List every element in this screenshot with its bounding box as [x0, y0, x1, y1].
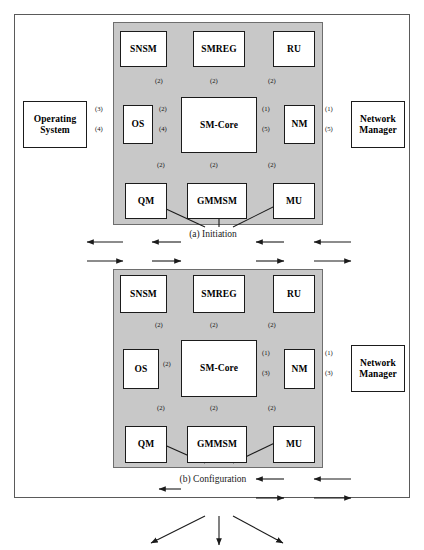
edge-label-core-gmmsm-b: (2) [210, 404, 218, 411]
edge-label-core-snsm-b: (2) [155, 321, 163, 328]
node-sm-core-a-label: SM-Core [200, 120, 238, 130]
edge-label-core-smreg-a: (2) [210, 77, 218, 84]
node-smreg-b[interactable]: SMREG [193, 275, 245, 313]
node-nm-b-label: NM [291, 364, 307, 374]
node-qm-a[interactable]: QM [125, 183, 167, 219]
node-os-b[interactable]: OS [123, 349, 159, 389]
node-os-b-label: OS [135, 364, 148, 374]
node-ru-a-label: RU [287, 44, 301, 54]
node-gmmsm-b[interactable]: GMMSM [187, 426, 247, 463]
edge-label-core-mu-b: (2) [268, 404, 276, 411]
node-network-manager-a-label-line1: Network [359, 114, 397, 124]
node-ru-a[interactable]: RU [273, 31, 315, 67]
edge-label-nm-netmgr-b: (3) [325, 369, 333, 376]
node-mu-a[interactable]: MU [273, 183, 315, 219]
edge-label-core-nm-b: (3) [262, 369, 270, 376]
node-mu-b[interactable]: MU [273, 426, 315, 463]
edge-label-core-os-b: (2) [163, 360, 171, 367]
diagram-initiation: SNSM SMREG RU Operating System OS SM-Cor… [15, 15, 411, 245]
node-os-a[interactable]: OS [123, 105, 153, 144]
node-smreg-b-label: SMREG [201, 289, 236, 299]
node-operating-system-a[interactable]: Operating System [23, 101, 87, 148]
edge-label-core-ru-a: (2) [268, 77, 276, 84]
node-network-manager-b-label-line2: Manager [359, 369, 397, 379]
node-nm-a-label: NM [291, 119, 307, 129]
node-smreg-a[interactable]: SMREG [193, 31, 245, 67]
node-operating-system-a-label-line2: System [34, 125, 77, 135]
edge-label-core-gmmsm-a: (2) [210, 161, 218, 168]
node-gmmsm-a-label: GMMSM [197, 196, 237, 206]
node-mu-b-label: MU [286, 439, 302, 449]
node-ru-b[interactable]: RU [273, 275, 315, 313]
node-snsm-b-label: SNSM [130, 289, 157, 299]
node-network-manager-b[interactable]: Network Manager [351, 345, 405, 392]
edge-label-netmgr-nm-a: (1) [325, 105, 333, 112]
node-gmmsm-a[interactable]: GMMSM [187, 183, 247, 219]
edge-label-core-nm-a: (5) [262, 125, 270, 132]
edge-label-netmgr-nm-b: (1) [325, 349, 333, 356]
caption-initiation: (a) Initiation [15, 229, 411, 239]
node-qm-b-label: QM [138, 439, 155, 449]
node-snsm-a[interactable]: SNSM [120, 31, 167, 67]
edge-label-nm-core-a: (1) [262, 105, 270, 112]
caption-configuration: (b) Configuration [15, 474, 411, 484]
edge-label-os-core-a: (4) [159, 125, 167, 132]
node-network-manager-a[interactable]: Network Manager [351, 101, 405, 148]
node-sm-core-b[interactable]: SM-Core [181, 340, 257, 397]
edge-label-core-snsm-a: (2) [155, 77, 163, 84]
edge-label-opsys-os-a: (4) [95, 125, 103, 132]
node-snsm-a-label: SNSM [130, 44, 157, 54]
node-network-manager-a-label-line2: Manager [359, 125, 397, 135]
edge-label-nm-netmgr-a: (5) [325, 125, 333, 132]
node-qm-a-label: QM [138, 196, 155, 206]
edge-label-core-mu-a: (2) [268, 161, 276, 168]
node-os-a-label: OS [132, 119, 145, 129]
edge-label-os-opsys-a: (3) [95, 105, 103, 112]
edge-label-core-qm-a: (2) [157, 161, 165, 168]
edge-label-core-ru-b: (2) [268, 321, 276, 328]
node-network-manager-b-label-line1: Network [359, 358, 397, 368]
edge-label-core-os-a: (2) [159, 105, 167, 112]
node-sm-core-b-label: SM-Core [200, 363, 238, 373]
diagram-configuration: SNSM SMREG RU OS SM-Core NM Network Man [15, 255, 411, 499]
node-smreg-a-label: SMREG [201, 44, 236, 54]
node-sm-core-a[interactable]: SM-Core [181, 97, 257, 153]
node-ru-b-label: RU [287, 289, 301, 299]
node-operating-system-a-label-line1: Operating [34, 114, 77, 124]
node-mu-a-label: MU [286, 196, 302, 206]
node-nm-b[interactable]: NM [284, 349, 315, 389]
edge-label-nm-core-b: (1) [262, 349, 270, 356]
figure-outer-frame: SNSM SMREG RU Operating System OS SM-Cor… [14, 14, 410, 498]
edge-label-core-smreg-b: (2) [210, 321, 218, 328]
node-qm-b[interactable]: QM [125, 426, 167, 463]
node-snsm-b[interactable]: SNSM [120, 275, 167, 313]
node-gmmsm-b-label: GMMSM [197, 439, 237, 449]
node-nm-a[interactable]: NM [284, 105, 315, 144]
edge-label-core-qm-b: (2) [157, 404, 165, 411]
